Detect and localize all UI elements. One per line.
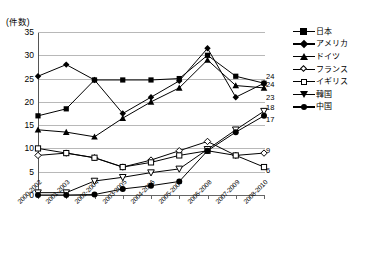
legend-marker: [300, 91, 308, 98]
series-data-point: [64, 150, 69, 155]
series-data-point: [233, 74, 238, 79]
series-data-point: [92, 192, 98, 198]
end-value-label: 17: [266, 115, 274, 124]
legend-marker: [300, 28, 307, 35]
series-data-point: [92, 155, 97, 160]
series-data-point: [120, 186, 126, 192]
series-data-point: [177, 153, 182, 158]
series-data-point: [35, 113, 40, 118]
series-marker-triangle-icon: [292, 50, 316, 62]
legend-label: ドイツ: [316, 52, 340, 61]
legend-item-3[interactable]: ドイツ: [292, 50, 382, 63]
series-data-point: [233, 153, 238, 158]
legend-item-5[interactable]: イギリス: [292, 75, 382, 88]
series-data-point: [63, 61, 69, 67]
end-value-label: 6: [266, 166, 270, 175]
series-marker-square-icon: [292, 25, 316, 37]
series-data-point: [204, 138, 210, 144]
legend-marker: [299, 40, 307, 48]
series-data-point: [91, 178, 98, 184]
legend-label: 日本: [316, 27, 332, 36]
legend-item-6[interactable]: 韓国: [292, 88, 382, 101]
legend-label: 中国: [316, 102, 332, 111]
legend-marker: [300, 53, 308, 60]
chart-legend: 日本アメリカドイツフランスイギリス韓国中国: [292, 25, 382, 113]
series-marker-open-diamond-icon: [292, 63, 316, 75]
legend-marker: [301, 79, 308, 86]
series-data-point: [120, 164, 125, 169]
legend-item-4[interactable]: フランス: [292, 63, 382, 76]
legend-label: イギリス: [316, 77, 348, 86]
series-data-point: [35, 146, 40, 151]
series-data-point: [148, 160, 153, 165]
legend-marker: [299, 65, 306, 72]
legend-item-1[interactable]: 日本: [292, 25, 382, 38]
series-marker-open-square-icon: [292, 76, 316, 88]
series-data-point: [119, 115, 126, 121]
series-marker-circle-icon: [292, 101, 316, 113]
series-marker-diamond-icon: [292, 38, 316, 50]
series-data-point: [233, 129, 239, 135]
series-data-point: [233, 94, 239, 100]
series-data-point: [120, 77, 125, 82]
legend-item-7[interactable]: 中国: [292, 101, 382, 114]
series-data-point: [148, 77, 153, 82]
series-data-point: [35, 192, 41, 198]
legend-label: アメリカ: [316, 39, 348, 48]
series-data-point: [148, 183, 154, 189]
series-data-point: [148, 99, 155, 105]
legend-label: フランス: [316, 65, 348, 74]
chart-page: (件数) 05101520253035 2000-20022001-200320…: [0, 0, 386, 260]
series-data-point: [35, 152, 41, 158]
legend-marker: [301, 104, 308, 111]
series-line: [38, 111, 264, 193]
series-filled-square: [35, 53, 266, 119]
end-value-label: 23: [266, 93, 274, 102]
end-value-label: 9: [266, 146, 270, 155]
end-value-label: 24: [266, 80, 274, 89]
series-data-point: [64, 106, 69, 111]
legend-label: 韓国: [316, 90, 332, 99]
series-marker-inverted-triangle-icon: [292, 88, 316, 100]
legend-item-2[interactable]: アメリカ: [292, 38, 382, 51]
end-value-label: 18: [266, 103, 274, 112]
series-data-point: [205, 148, 211, 154]
series-data-point: [63, 192, 69, 198]
series-line: [38, 55, 264, 116]
series-data-point: [35, 73, 41, 79]
series-data-point: [176, 178, 182, 184]
